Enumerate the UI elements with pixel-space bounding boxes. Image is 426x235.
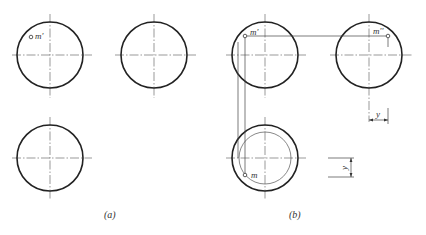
panel-a-top-view bbox=[12, 117, 92, 200]
dimension-y-side: y bbox=[369, 108, 388, 124]
panel-a-front-view: m' bbox=[12, 14, 92, 98]
point-m-prime-label: m' bbox=[250, 27, 259, 37]
point-m-prime-marker bbox=[29, 35, 33, 39]
panel-a: m' (a) bbox=[12, 14, 196, 221]
panel-b: m' m'' m y y (b) bbox=[226, 14, 412, 221]
panel-a-caption: (a) bbox=[104, 209, 116, 221]
panel-a-side-view bbox=[115, 14, 196, 98]
point-m-prime-marker bbox=[243, 34, 247, 38]
point-m-prime-label: m' bbox=[35, 31, 44, 41]
point-m-label: m bbox=[251, 170, 258, 180]
sphere-projection-diagram: m' (a) bbox=[0, 0, 426, 235]
point-m-marker bbox=[243, 173, 247, 177]
panel-b-caption: (b) bbox=[289, 209, 301, 221]
projection-lines bbox=[238, 36, 388, 174]
point-m-double-prime-label: m'' bbox=[373, 26, 384, 36]
panel-b-side-view bbox=[330, 14, 412, 122]
dimension-y-top: y bbox=[328, 158, 354, 177]
point-m-double-prime-marker bbox=[386, 34, 390, 38]
dimension-y-top-label: y bbox=[339, 166, 349, 171]
dimension-y-side-label: y bbox=[375, 109, 380, 119]
